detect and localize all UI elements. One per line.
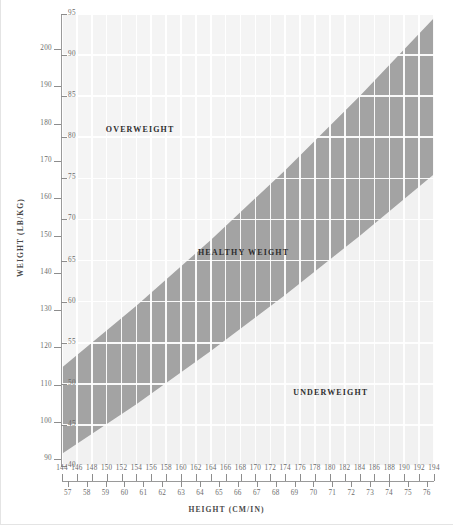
y-tick-lb bbox=[54, 385, 61, 386]
y-tick-lb bbox=[54, 236, 61, 237]
y-tick-kg bbox=[61, 425, 67, 426]
x-axis-line bbox=[62, 481, 434, 482]
y-tick-label-lb: 170 bbox=[40, 156, 52, 164]
x-tick-label-in: 59 bbox=[102, 489, 110, 497]
x-tick-label-cm: 170 bbox=[250, 464, 261, 472]
x-tick-in bbox=[68, 481, 69, 487]
y-tick-kg bbox=[61, 343, 67, 344]
x-tick-label-cm: 154 bbox=[131, 464, 142, 472]
x-tick-cm bbox=[345, 474, 346, 481]
x-tick-cm bbox=[136, 474, 137, 481]
x-tick-label-cm: 146 bbox=[71, 464, 82, 472]
x-tick-in bbox=[143, 481, 144, 487]
x-tick-label-in: 63 bbox=[177, 489, 185, 497]
x-tick-label-in: 66 bbox=[234, 489, 242, 497]
x-tick-label-cm: 150 bbox=[101, 464, 112, 472]
x-tick-cm bbox=[77, 474, 78, 481]
x-tick-in bbox=[200, 481, 201, 487]
y-tick-label-kg: 70 bbox=[68, 214, 76, 222]
gridline-vertical bbox=[62, 14, 63, 466]
x-tick-label-in: 61 bbox=[140, 489, 148, 497]
gridline-horizontal bbox=[62, 424, 434, 426]
x-tick-in bbox=[389, 481, 390, 487]
gridline-vertical bbox=[150, 14, 152, 466]
x-tick-label-cm: 168 bbox=[235, 464, 246, 472]
x-tick-label-in: 73 bbox=[366, 489, 374, 497]
x-tick-label-in: 68 bbox=[272, 489, 280, 497]
x-tick-label-in: 57 bbox=[64, 489, 72, 497]
x-tick-label-cm: 148 bbox=[86, 464, 97, 472]
y-tick-lb bbox=[54, 49, 61, 50]
gridline-horizontal bbox=[62, 301, 434, 303]
x-tick-label-cm: 184 bbox=[354, 464, 365, 472]
x-tick-in bbox=[238, 481, 239, 487]
x-tick-label-in: 62 bbox=[158, 489, 166, 497]
gridline-vertical bbox=[106, 14, 108, 466]
x-tick-in bbox=[332, 481, 333, 487]
y-tick-kg bbox=[61, 137, 67, 138]
x-tick-label-cm: 188 bbox=[384, 464, 395, 472]
x-tick-label-cm: 176 bbox=[294, 464, 305, 472]
x-tick-label-in: 72 bbox=[347, 489, 355, 497]
x-tick-cm bbox=[166, 474, 167, 481]
gridline-vertical bbox=[344, 14, 346, 466]
x-tick-label-cm: 152 bbox=[116, 464, 127, 472]
x-tick-label-in: 69 bbox=[291, 489, 299, 497]
x-tick-label-in: 75 bbox=[404, 489, 412, 497]
gridline-horizontal bbox=[62, 54, 434, 56]
gridline-vertical bbox=[433, 14, 434, 466]
y-tick-kg bbox=[61, 219, 67, 220]
x-tick-label-in: 67 bbox=[253, 489, 261, 497]
gridline-vertical bbox=[359, 14, 361, 466]
y-tick-label-kg: 95 bbox=[68, 9, 76, 17]
x-tick-cm bbox=[211, 474, 212, 481]
x-tick-label-in: 64 bbox=[196, 489, 204, 497]
x-tick-label-cm: 194 bbox=[428, 464, 439, 472]
gridline-horizontal bbox=[62, 14, 434, 15]
gridline-vertical bbox=[299, 14, 301, 466]
gridline-vertical bbox=[314, 14, 316, 466]
y-tick-label-kg: 60 bbox=[68, 297, 76, 305]
gridline-horizontal bbox=[62, 95, 434, 97]
x-tick-cm bbox=[122, 474, 123, 481]
y-tick-lb bbox=[54, 273, 61, 274]
y-tick-label-lb: 180 bbox=[40, 119, 52, 127]
gridline-vertical bbox=[329, 14, 331, 466]
gridline-vertical bbox=[121, 14, 123, 466]
x-tick-in bbox=[427, 481, 428, 487]
y-tick-lb bbox=[54, 310, 61, 311]
x-tick-in bbox=[106, 481, 107, 487]
x-tick-label-cm: 164 bbox=[205, 464, 216, 472]
x-tick-cm bbox=[270, 474, 271, 481]
y-tick-lb bbox=[54, 124, 61, 125]
x-tick-cm bbox=[226, 474, 227, 481]
plot-area: OVERWEIGHT HEALTHY WEIGHT UNDERWEIGHT bbox=[62, 14, 434, 466]
y-tick-lb bbox=[54, 459, 61, 460]
y-tick-kg bbox=[61, 96, 67, 97]
gridline-vertical bbox=[210, 14, 212, 466]
x-tick-label-cm: 162 bbox=[190, 464, 201, 472]
page-edge-left bbox=[0, 0, 1, 525]
x-tick-label-in: 60 bbox=[121, 489, 129, 497]
x-tick-label-cm: 172 bbox=[265, 464, 276, 472]
gridline-vertical bbox=[195, 14, 197, 466]
x-tick-cm bbox=[62, 474, 63, 481]
x-tick-cm bbox=[300, 474, 301, 481]
gridline-vertical bbox=[255, 14, 257, 466]
x-tick-in bbox=[370, 481, 371, 487]
gridline-vertical bbox=[165, 14, 167, 466]
y-tick-label-kg: 85 bbox=[68, 91, 76, 99]
x-tick-label-cm: 166 bbox=[220, 464, 231, 472]
x-tick-cm bbox=[285, 474, 286, 481]
x-tick-cm bbox=[196, 474, 197, 481]
x-tick-in bbox=[219, 481, 220, 487]
x-tick-in bbox=[181, 481, 182, 487]
y-tick-label-kg: 50 bbox=[68, 379, 76, 387]
y-tick-kg bbox=[61, 384, 67, 385]
x-tick-label-cm: 192 bbox=[413, 464, 424, 472]
y-axis-line bbox=[61, 14, 62, 466]
gridline-vertical bbox=[389, 14, 391, 466]
y-tick-kg bbox=[61, 178, 67, 179]
y-tick-label-lb: 120 bbox=[40, 342, 52, 350]
gridline-vertical bbox=[136, 14, 138, 466]
